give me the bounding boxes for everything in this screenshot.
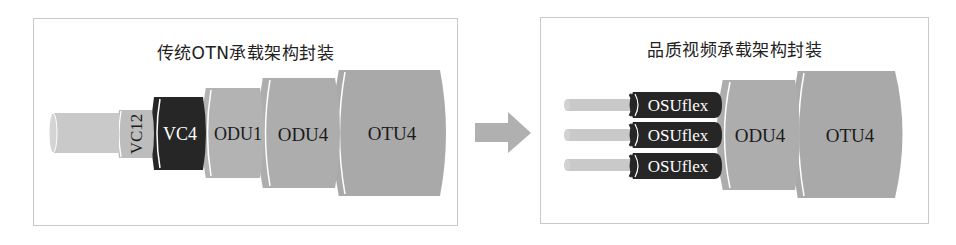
arrow-right-icon (475, 112, 531, 153)
layer-label-odu1: ODU1 (214, 124, 262, 144)
layer-otu4: OTU4 (332, 70, 446, 196)
layer-label-otu4: OTU4 (368, 123, 417, 144)
panel-title: 品质视频承载架构封装 (541, 36, 928, 61)
layer-core (49, 113, 119, 153)
quality-video-panel: 品质视频承载架构封装 (540, 17, 929, 224)
layer-odu1: ODU1 (201, 88, 264, 178)
layer-label-vc12: VC12 (127, 114, 146, 155)
layer-vc12: VC12 (117, 110, 154, 158)
layer-odu4: ODU4 (257, 78, 340, 188)
layer-label-vc4: VC4 (163, 124, 197, 144)
traditional-cable: OTU4 ODU4 ODU1 VC4 VC12 (49, 70, 446, 196)
layer-vc4: VC4 (151, 97, 206, 170)
layer-label-odu4: ODU4 (278, 124, 329, 145)
